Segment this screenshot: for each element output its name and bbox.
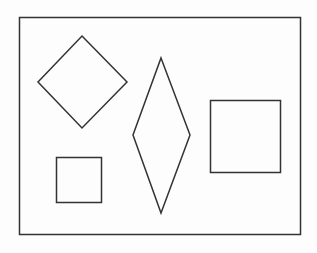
large-square-shape bbox=[211, 101, 281, 173]
small-square-shape bbox=[57, 158, 102, 203]
shapes-group bbox=[38, 36, 281, 213]
diamond-shape bbox=[38, 36, 127, 128]
shapes-diagram bbox=[0, 0, 317, 253]
rhombus-shape bbox=[133, 58, 190, 213]
